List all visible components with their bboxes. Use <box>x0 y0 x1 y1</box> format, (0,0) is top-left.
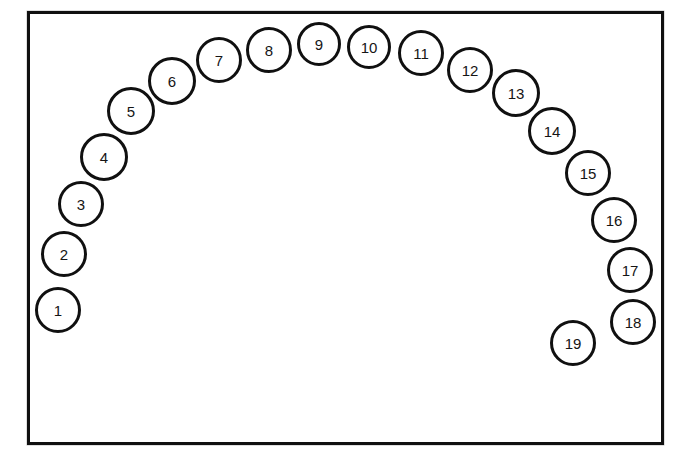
tooth-node-label: 5 <box>127 104 135 119</box>
tooth-node-label: 12 <box>462 63 479 78</box>
diagram-frame <box>27 11 664 445</box>
tooth-node-label: 4 <box>100 150 108 165</box>
tooth-node-9[interactable]: 9 <box>297 22 341 66</box>
tooth-node-label: 2 <box>60 247 68 262</box>
tooth-node-label: 3 <box>77 197 85 212</box>
tooth-node-label: 9 <box>315 37 323 52</box>
tooth-node-label: 11 <box>413 46 429 61</box>
tooth-node-7[interactable]: 7 <box>196 37 242 83</box>
tooth-node-label: 7 <box>215 53 223 68</box>
tooth-node-label: 18 <box>625 315 642 330</box>
tooth-node-label: 14 <box>544 124 561 139</box>
tooth-node-2[interactable]: 2 <box>41 231 87 277</box>
tooth-node-6[interactable]: 6 <box>148 57 196 105</box>
tooth-node-10[interactable]: 10 <box>347 25 391 69</box>
tooth-node-label: 16 <box>606 213 623 228</box>
tooth-node-18[interactable]: 18 <box>610 299 656 345</box>
tooth-node-label: 15 <box>580 166 597 181</box>
tooth-node-label: 10 <box>361 40 378 55</box>
tooth-node-8[interactable]: 8 <box>246 27 292 73</box>
tooth-node-3[interactable]: 3 <box>58 181 104 227</box>
diagram-canvas: 12345678910111213141516171819 <box>0 0 674 461</box>
tooth-node-19[interactable]: 19 <box>550 320 596 366</box>
tooth-node-12[interactable]: 12 <box>447 47 493 93</box>
tooth-node-14[interactable]: 14 <box>528 107 576 155</box>
tooth-node-16[interactable]: 16 <box>591 197 637 243</box>
tooth-node-label: 17 <box>622 263 639 278</box>
tooth-node-label: 6 <box>168 74 176 89</box>
tooth-node-13[interactable]: 13 <box>492 69 540 117</box>
tooth-node-label: 8 <box>265 43 273 58</box>
tooth-node-label: 1 <box>54 303 62 318</box>
tooth-node-1[interactable]: 1 <box>35 287 81 333</box>
tooth-node-label: 19 <box>565 336 582 351</box>
tooth-node-label: 13 <box>508 86 525 101</box>
tooth-node-15[interactable]: 15 <box>565 150 611 196</box>
tooth-node-4[interactable]: 4 <box>80 133 128 181</box>
tooth-node-17[interactable]: 17 <box>607 247 653 293</box>
tooth-node-11[interactable]: 11 <box>398 30 444 76</box>
tooth-node-5[interactable]: 5 <box>107 87 155 135</box>
